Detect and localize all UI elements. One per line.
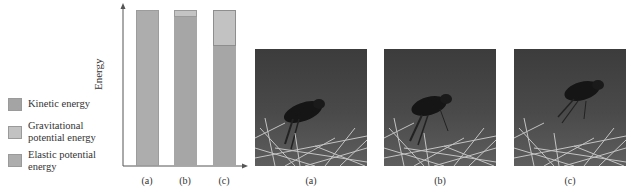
photo-label-b: (b) — [425, 175, 455, 186]
bar-c — [213, 10, 236, 166]
bar-b-gravitational — [174, 10, 197, 17]
grass-graphic — [384, 118, 496, 166]
photo-label-a: (a) — [296, 175, 326, 186]
bar-a — [136, 10, 159, 166]
bar-b — [174, 10, 197, 166]
category-label-a: (a) — [132, 175, 162, 186]
bar-c-gravitational — [213, 10, 236, 46]
y-axis-arrow-icon — [121, 3, 126, 9]
photo-flea-a — [255, 49, 367, 166]
photo-flea-c — [514, 49, 626, 166]
bar-a-elastic — [136, 10, 159, 166]
bar-c-kinetic — [213, 46, 236, 166]
photo-label-c: (c) — [555, 175, 585, 186]
grass-graphic — [514, 118, 626, 166]
category-label-b: (b) — [170, 175, 200, 186]
category-label-c: (c) — [209, 175, 239, 186]
grass-graphic — [255, 118, 367, 166]
bar-b-kinetic — [174, 17, 197, 166]
x-axis-arrow-icon — [242, 164, 248, 169]
photo-flea-b — [384, 49, 496, 166]
